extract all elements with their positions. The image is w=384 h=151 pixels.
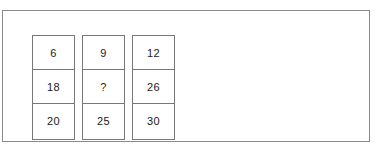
outer-frame: 6 18 20 9 ? 25 12 26 30 xyxy=(2,10,370,142)
page-root: 6 18 20 9 ? 25 12 26 30 xyxy=(0,0,384,151)
puzzle-cell-c2r2-unknown: ? xyxy=(83,70,124,104)
puzzle-column-1: 6 18 20 xyxy=(32,35,75,140)
puzzle-cell-c1r3: 20 xyxy=(33,104,74,139)
puzzle-column-3: 12 26 30 xyxy=(132,35,175,140)
puzzle-grid: 6 18 20 9 ? 25 12 26 30 xyxy=(32,35,175,140)
puzzle-cell-c1r1: 6 xyxy=(33,36,74,70)
puzzle-cell-c1r2: 18 xyxy=(33,70,74,104)
puzzle-column-2: 9 ? 25 xyxy=(82,35,125,140)
puzzle-cell-c3r2: 26 xyxy=(133,70,174,104)
puzzle-cell-c2r1: 9 xyxy=(83,36,124,70)
puzzle-cell-c3r1: 12 xyxy=(133,36,174,70)
puzzle-cell-c2r3: 25 xyxy=(83,104,124,139)
puzzle-cell-c3r3: 30 xyxy=(133,104,174,139)
